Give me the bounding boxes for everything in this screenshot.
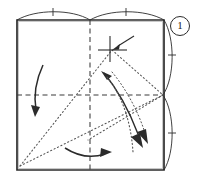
origami-diagram (0, 0, 197, 187)
step-number-badge: 1 (170, 16, 190, 36)
